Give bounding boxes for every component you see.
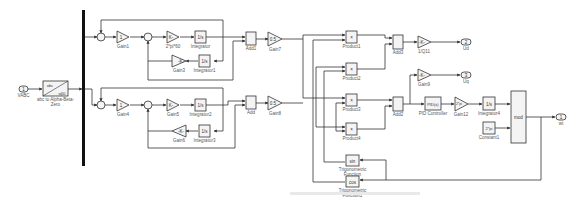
product1-value: × [350, 35, 353, 40]
integrator3-value: 1/s [201, 129, 207, 134]
gain7-label: Gain7 [269, 47, 281, 52]
gain-2pi-value: K- [169, 35, 174, 40]
demux-bus-bar[interactable] [82, 10, 85, 166]
gain-1q11-value: -K- [419, 40, 425, 45]
gain4-label: Gain4 [117, 112, 129, 117]
diagram-wires [0, 0, 582, 210]
integrator2-label: Integrator2 [190, 112, 212, 117]
integrator1-value: 1/s [201, 59, 207, 64]
simulink-diagram: 1 abc αβ0 1 K- 1/s -K- 1/s 1 K- 1/s -K- … [0, 0, 582, 210]
wt-label: wt [559, 121, 564, 126]
caption-blur [290, 192, 420, 195]
gain5-label: Gain5 [167, 112, 179, 117]
add1-block[interactable] [246, 32, 256, 45]
integrator2-value: 1/s [197, 103, 203, 108]
trig-cos-value: cos [349, 179, 356, 184]
gain5-value: K- [169, 103, 174, 108]
gain-1q11-label: 1/Q11 [418, 49, 430, 54]
gain-2pi60-label: 2*pi*60 [166, 44, 181, 49]
gain6-label: Gain6 [173, 138, 185, 143]
gain1-label: Gain1 [117, 44, 129, 49]
abc-transform-bottom: αβ0 [59, 91, 66, 96]
add3-block[interactable] [393, 35, 403, 49]
integrator1-label: Integrator1 [194, 68, 216, 73]
uq-port-number: 3 [465, 73, 468, 78]
integrator-value: 1/s [197, 35, 203, 40]
product4-value: × [350, 127, 353, 132]
vabc-label: VABC [18, 93, 30, 98]
abc-transform-label: abc to Alpha-Beta-Zero [36, 97, 76, 107]
uq-label: Uq [463, 79, 469, 84]
sum-beta-1[interactable] [97, 101, 105, 109]
add2-label: Add2 [393, 112, 404, 117]
product3-value: × [350, 98, 353, 103]
gain7-value: 0.5 [270, 37, 276, 42]
trig-sin-label: Trigonometric Function [337, 167, 369, 177]
gain6-value: -K- [178, 129, 184, 134]
gain3-label: Gain3 [173, 68, 185, 73]
product4-label: Product4 [342, 136, 360, 141]
integrator4-label: Integrator4 [478, 111, 500, 116]
product2-value: × [350, 67, 353, 72]
add2-block[interactable] [393, 97, 403, 111]
gain12-label: Gain12 [454, 112, 469, 117]
gain12-value: 2*pi [456, 102, 462, 107]
add-block[interactable] [246, 96, 256, 109]
pid-label: PID Controller [419, 111, 447, 116]
gain9-value: -K- [419, 73, 425, 78]
add-label: Add [247, 110, 255, 115]
gain9-label: Gain9 [418, 82, 430, 87]
product1-label: Product1 [342, 44, 360, 49]
gain1-value: 1 [120, 35, 123, 40]
integrator-label: Integrator [191, 44, 210, 49]
ud-port-number: 2 [465, 40, 468, 45]
sum-alpha-1[interactable] [97, 33, 105, 41]
add3-label: Add3 [393, 50, 404, 55]
constant1-value: 2*pi [486, 126, 493, 131]
gain4-value: 1 [120, 103, 123, 108]
mod-value: mod [514, 115, 523, 120]
gain3-value: -K- [178, 59, 184, 64]
gain8-label: Gain8 [269, 111, 281, 116]
gain8-value: 0.5 [270, 101, 276, 106]
pid-value: PID(s) [427, 101, 438, 106]
trig-sin-value: sin [350, 158, 356, 163]
sum-beta-2[interactable] [144, 101, 152, 109]
abc-transform-top: abc [47, 83, 53, 88]
integrator3-label: Integrator3 [194, 138, 216, 143]
sum-alpha-2[interactable] [144, 33, 152, 41]
product3-label: Product3 [342, 107, 360, 112]
integrator4-value: 1/s [486, 101, 492, 106]
vabc-port-number: 1 [22, 87, 25, 92]
product2-label: Product2 [342, 76, 360, 81]
constant1-label: Constant1 [479, 135, 500, 140]
add1-label: Add1 [246, 46, 257, 51]
blocks [19, 31, 566, 187]
wt-port-number: 1 [560, 115, 563, 120]
ud-label: Ud [463, 46, 469, 51]
